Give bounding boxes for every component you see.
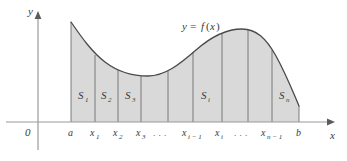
x-tick-xi-minus-1-base: x <box>181 127 187 138</box>
x-tick-xn-minus-1-base: x <box>260 127 266 138</box>
strip-label-S3-base: S <box>125 89 131 101</box>
x-tick-x1: x 1 <box>89 127 100 141</box>
x-tick-ellipsis-right: . . . <box>234 128 248 138</box>
x-tick-xi-sub: i <box>221 133 223 141</box>
x-axis-arrow-icon <box>327 119 335 126</box>
strip-label-Si-base: S <box>201 89 207 101</box>
x-tick-x1-sub: 1 <box>96 133 100 141</box>
x-tick-b: b <box>296 127 301 138</box>
strip-label-S3-sub: 3 <box>131 96 136 104</box>
curve-label-equals: = <box>190 20 196 32</box>
y-axis-arrow-icon <box>35 11 42 19</box>
strip-label-S1-base: S <box>78 89 84 101</box>
curve-label-x: x <box>209 20 215 32</box>
strip-label-Sn-base: S <box>279 89 285 101</box>
x-tick-xi-minus-1: x i − 1 <box>181 127 202 141</box>
strip-label-S2-base: S <box>101 89 107 101</box>
x-tick-x2: x 2 <box>112 127 123 141</box>
origin-label: 0 <box>25 126 31 138</box>
x-tick-xn-minus-1: x n − 1 <box>260 127 282 141</box>
curve-label-close-paren: ) <box>216 20 220 33</box>
strip-label-Sn-sub: n <box>286 96 290 104</box>
strip-label-S1-sub: 1 <box>85 96 89 104</box>
x-tick-x3-sub: 3 <box>141 133 146 141</box>
curve-label-y: y <box>181 20 187 32</box>
x-tick-x3: x 3 <box>135 127 146 141</box>
x-tick-x1-base: x <box>89 127 95 138</box>
x-tick-labels: a x 1 x 2 x 3 . . . x i − 1 x i <box>68 127 301 141</box>
x-tick-xi-base: x <box>214 127 220 138</box>
x-tick-ellipsis-left: . . . <box>153 128 167 138</box>
x-tick-xi: x i <box>214 127 223 141</box>
x-axis-label: x <box>329 129 335 141</box>
shaded-area-under-curve <box>71 22 299 122</box>
x-tick-xn-minus-1-sub: n − 1 <box>267 133 282 141</box>
x-tick-xi-minus-1-sub: i − 1 <box>188 133 202 141</box>
strip-label-S2-sub: 2 <box>108 96 112 104</box>
y-axis-label: y <box>27 5 33 17</box>
x-tick-a: a <box>68 127 73 138</box>
x-tick-x2-sub: 2 <box>119 133 123 141</box>
strip-label-Si-sub: i <box>208 96 210 104</box>
x-tick-x3-base: x <box>135 127 141 138</box>
riemann-area-figure: y x 0 y = f ( x ) S 1 S 2 S 3 <box>0 0 347 161</box>
curve-label: y = f ( x ) <box>181 20 220 33</box>
x-tick-x2-base: x <box>112 127 118 138</box>
